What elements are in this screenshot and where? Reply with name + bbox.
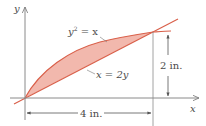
y-axis-label: y: [13, 3, 20, 14]
vertical-dimension-label: 2 in.: [160, 60, 182, 71]
parabola-curve: [25, 31, 171, 98]
x-axis-label: x: [190, 103, 196, 114]
parabola-label: y2 = x: [67, 25, 98, 37]
diagram: 2 in. 4 in. y x y2 = x x = 2y: [0, 0, 206, 126]
line-leader: [87, 70, 95, 74]
line-label: x = 2y: [96, 69, 129, 80]
horizontal-dimension-label: 4 in.: [80, 108, 102, 119]
